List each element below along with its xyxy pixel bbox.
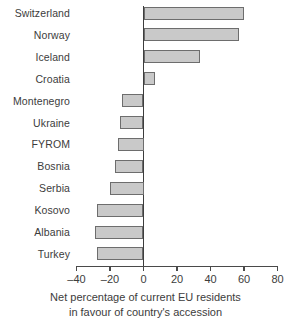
bar xyxy=(122,94,144,107)
bar xyxy=(144,7,245,20)
axis-tick xyxy=(143,266,144,271)
axis-tick xyxy=(76,266,77,271)
axis-tick-label: –20 xyxy=(95,273,125,285)
bar-chart: SwitzerlandNorwayIcelandCroatiaMontenegr… xyxy=(0,0,291,325)
axis-tick xyxy=(210,266,211,271)
axis-tick-label: 0 xyxy=(129,273,159,285)
bar xyxy=(144,72,156,85)
value-axis-title-line-1: Net percentage of current EU residents xyxy=(0,290,291,305)
bar xyxy=(144,50,201,63)
axis-tick-label: 80 xyxy=(263,273,292,285)
bar xyxy=(97,204,144,217)
bar xyxy=(110,182,144,195)
axis-tick xyxy=(243,266,244,271)
axis-tick xyxy=(176,266,177,271)
axis-tick xyxy=(109,266,110,271)
plot-area: SwitzerlandNorwayIcelandCroatiaMontenegr… xyxy=(0,0,291,268)
axis-tick-label: 20 xyxy=(162,273,192,285)
bar xyxy=(144,28,239,41)
value-axis-title: Net percentage of current EU residents i… xyxy=(0,290,291,320)
bar xyxy=(95,226,144,239)
axis-tick xyxy=(277,266,278,271)
axis-tick-label: –40 xyxy=(62,273,92,285)
axis-tick-label: 60 xyxy=(229,273,259,285)
bar xyxy=(97,247,144,260)
axis-tick-label: 40 xyxy=(196,273,226,285)
value-axis-title-line-2: in favour of country's accession xyxy=(0,305,291,320)
bar xyxy=(120,116,143,129)
bar xyxy=(115,160,143,173)
bar xyxy=(118,138,143,151)
bars-layer xyxy=(0,0,291,268)
